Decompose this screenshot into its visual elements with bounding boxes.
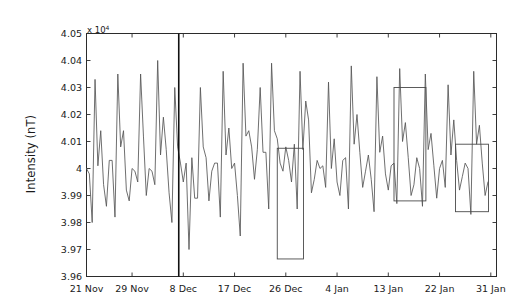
x-tick-label: 13 Jan	[373, 283, 403, 294]
x-tick-label-group: 21 Nov29 Nov8 Dec17 Dec26 Dec4 Jan13 Jan…	[70, 283, 506, 294]
x-tick-label: 21 Nov	[70, 283, 104, 294]
chart-page: Intensity (nT) x 104 3.963.973.983.9944.…	[0, 0, 525, 307]
y-tick-label: 4.05	[61, 28, 82, 39]
x-tick-label: 29 Nov	[115, 283, 149, 294]
y-tick-label: 4.04	[61, 55, 82, 66]
y-tick-label: 4.01	[61, 136, 82, 147]
y-tick-label: 3.96	[61, 271, 82, 282]
y-tick-label: 4	[76, 163, 82, 174]
y-tick-label: 3.98	[61, 217, 82, 228]
x-tick-label: 8 Dec	[170, 283, 197, 294]
x-tick-label: 26 Dec	[269, 283, 303, 294]
intensity-line-chart: x 104 3.963.973.983.9944.014.024.034.044…	[0, 0, 525, 307]
x-tick-label: 4 Jan	[325, 283, 349, 294]
y-tick-label: 3.99	[61, 190, 82, 201]
highlight-box-1	[277, 148, 303, 259]
tick-mark-group	[87, 34, 497, 277]
series-line	[87, 61, 488, 250]
exponent-power: 4	[106, 24, 110, 31]
x-tick-label: 17 Dec	[218, 283, 252, 294]
plot-frame	[87, 34, 497, 277]
y-tick-label-group: 3.963.973.983.9944.014.024.034.044.05	[61, 28, 82, 282]
highlight-box-group	[277, 88, 488, 259]
y-tick-label: 4.03	[61, 82, 82, 93]
x-tick-label: 31 Jan	[476, 283, 506, 294]
data-series-group	[87, 61, 488, 250]
y-tick-label: 4.02	[61, 109, 82, 120]
x-tick-label: 22 Jan	[425, 283, 455, 294]
y-tick-label: 3.97	[61, 244, 82, 255]
